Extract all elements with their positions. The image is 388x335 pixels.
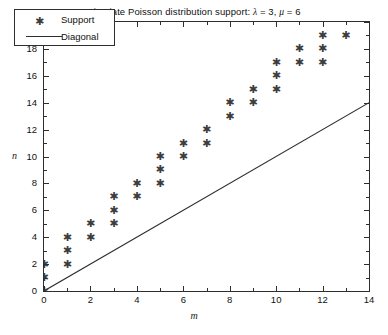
y-tick (364, 49, 369, 50)
legend-label-support: Support (61, 11, 94, 28)
x-tick (137, 286, 138, 291)
x-axis-label: m (0, 310, 388, 321)
support-point: ✱ (63, 246, 72, 255)
support-point: ✱ (341, 31, 350, 40)
support-point: ✱ (156, 165, 165, 174)
y-tick (364, 237, 369, 238)
support-point: ✱ (295, 44, 304, 53)
y-tick (364, 183, 369, 184)
y-tick (44, 62, 47, 63)
x-tick (137, 22, 138, 27)
y-tick (366, 278, 369, 279)
x-tick (346, 22, 347, 25)
y-tick-label: 2 (11, 258, 37, 269)
x-tick (299, 288, 300, 291)
y-tick (366, 224, 369, 225)
support-point: ✱ (272, 58, 281, 67)
y-tick (366, 116, 369, 117)
y-tick (44, 264, 49, 265)
x-tick (90, 286, 91, 291)
mu-value: = 6 (284, 6, 301, 17)
x-tick-label: 14 (356, 294, 382, 305)
x-tick (323, 286, 324, 291)
legend-item-support: ✱ Support (15, 11, 116, 28)
lambda-value: = 3, (257, 6, 279, 17)
x-tick-label: 4 (124, 294, 150, 305)
x-tick-label: 8 (217, 294, 243, 305)
support-point: ✱ (318, 44, 327, 53)
x-tick (183, 22, 184, 27)
y-tick-label: 0 (11, 285, 37, 296)
x-tick (323, 22, 324, 27)
x-tick (160, 22, 161, 25)
support-point: ✱ (63, 260, 72, 269)
x-tick (207, 288, 208, 291)
support-point: ✱ (225, 98, 234, 107)
y-tick (44, 49, 49, 50)
y-tick (366, 35, 369, 36)
x-tick (369, 286, 370, 291)
x-tick (160, 288, 161, 291)
x-tick-label: 2 (77, 294, 103, 305)
y-tick (44, 170, 47, 171)
y-tick-label: 12 (11, 124, 37, 135)
support-point: ✱ (132, 192, 141, 201)
y-tick (364, 291, 369, 292)
support-point: ✱ (109, 192, 118, 201)
support-point: ✱ (86, 233, 95, 242)
y-tick-label: 6 (11, 204, 37, 215)
y-tick (44, 224, 47, 225)
y-tick (364, 76, 369, 77)
x-tick (369, 22, 370, 27)
asterisk-marker-icon: ✱ (19, 11, 60, 28)
x-tick (207, 22, 208, 25)
y-tick (44, 103, 49, 104)
support-points-layer: ✱✱✱✱✱✱✱✱✱✱✱✱✱✱✱✱✱✱✱✱✱✱✱✱✱✱✱✱✱✱✱✱✱ (44, 22, 369, 291)
y-tick (364, 103, 369, 104)
support-point: ✱ (86, 219, 95, 228)
y-tick (44, 237, 49, 238)
y-tick (44, 130, 49, 131)
x-tick-label: 12 (310, 294, 336, 305)
x-tick (346, 288, 347, 291)
support-point: ✱ (272, 71, 281, 80)
chart-figure: Bivariate Poisson distribution support: … (0, 0, 388, 335)
x-tick (276, 22, 277, 27)
x-tick (276, 286, 277, 291)
x-tick-label: 10 (263, 294, 289, 305)
y-tick (44, 210, 49, 211)
support-point: ✱ (63, 233, 72, 242)
y-tick (44, 143, 47, 144)
y-tick (366, 170, 369, 171)
y-tick-label: 14 (11, 97, 37, 108)
y-tick (366, 62, 369, 63)
support-point: ✱ (202, 139, 211, 148)
support-point: ✱ (318, 31, 327, 40)
y-tick (366, 89, 369, 90)
y-tick-label: 4 (11, 231, 37, 242)
support-point: ✱ (248, 85, 257, 94)
legend-label-diagonal: Diagonal (61, 28, 99, 45)
y-tick (364, 157, 369, 158)
y-tick-label: 8 (11, 177, 37, 188)
x-tick (253, 288, 254, 291)
y-tick (44, 251, 47, 252)
plot-area: ✱✱✱✱✱✱✱✱✱✱✱✱✱✱✱✱✱✱✱✱✱✱✱✱✱✱✱✱✱✱✱✱✱ (43, 21, 370, 292)
y-axis-label: n (12, 150, 17, 161)
support-point: ✱ (295, 58, 304, 67)
y-tick (44, 183, 49, 184)
y-tick (44, 76, 49, 77)
y-tick-label: 16 (11, 70, 37, 81)
y-tick (44, 157, 49, 158)
y-tick (364, 130, 369, 131)
support-point: ✱ (109, 219, 118, 228)
support-point: ✱ (202, 125, 211, 134)
x-tick (67, 288, 68, 291)
y-tick (44, 116, 47, 117)
x-tick (230, 22, 231, 27)
x-tick (230, 286, 231, 291)
y-tick (44, 197, 47, 198)
y-tick (366, 197, 369, 198)
y-tick (44, 278, 47, 279)
support-point: ✱ (179, 152, 188, 161)
